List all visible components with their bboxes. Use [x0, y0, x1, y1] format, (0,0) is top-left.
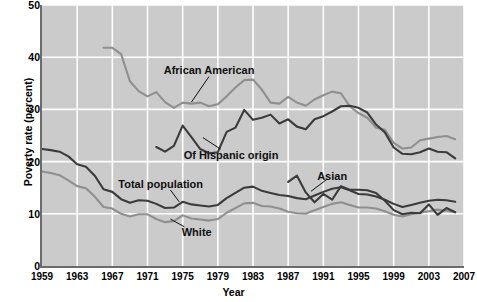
y-axis-ticks: 01020304050: [0, 0, 40, 302]
y-axis-line: [40, 5, 42, 268]
series-label: Asian: [317, 170, 347, 182]
x-axis-tick-label: 1991: [312, 271, 334, 282]
x-axis-line: [42, 266, 464, 268]
y-axis-tick-label: 50: [6, 0, 40, 11]
x-axis-title-text: Year: [222, 286, 244, 298]
x-axis-tick-label: 1967: [101, 271, 123, 282]
x-axis-tick-label: 1959: [31, 271, 53, 282]
x-axis-tick-label: 1983: [242, 271, 264, 282]
x-axis-title: Year: [0, 286, 477, 298]
series-label: African American: [164, 64, 255, 76]
x-axis-tick-label: 1975: [172, 271, 194, 282]
x-axis-tick-label: 2007: [453, 271, 475, 282]
annotation-leader-line: [191, 77, 209, 103]
series-label: White: [182, 226, 212, 238]
series-label: Of Hispanic origin: [184, 149, 279, 161]
annotation-leader-line: [170, 190, 179, 202]
y-axis-title-text: Poverty rate (percent): [22, 78, 34, 187]
x-axis-tick-label: 1995: [347, 271, 369, 282]
x-axis-tick-label: 1963: [66, 271, 88, 282]
x-axis-tick-label: 1999: [383, 271, 405, 282]
y-axis-title: Poverty rate (percent): [22, 42, 34, 222]
x-axis-tick-label: 1979: [207, 271, 229, 282]
poverty-rate-line-chart: 01020304050 African AmericanOf Hispanic …: [0, 0, 477, 302]
series-label: Total population: [118, 178, 203, 190]
x-axis-tick-label: 1987: [277, 271, 299, 282]
x-axis-tick-label: 1971: [136, 271, 158, 282]
x-axis-tick-label: 2003: [418, 271, 440, 282]
series-line: [104, 48, 456, 149]
